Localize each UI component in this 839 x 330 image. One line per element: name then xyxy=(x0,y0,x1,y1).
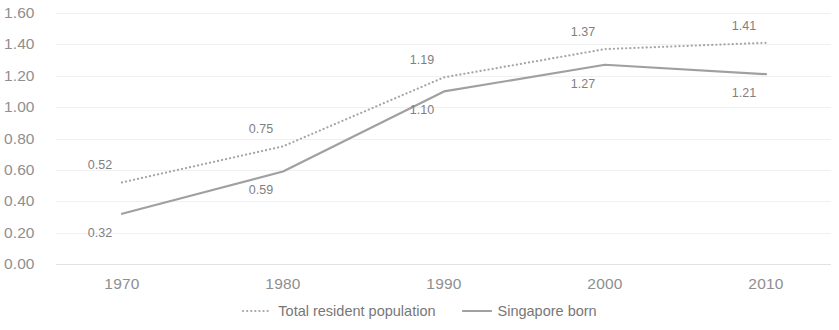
series-line xyxy=(122,65,766,214)
y-axis: 1.601.401.201.000.800.600.400.200.00 xyxy=(0,13,50,264)
data-point-label: 0.52 xyxy=(88,159,112,172)
data-point-label: 1.19 xyxy=(410,54,434,67)
data-point-label: 0.59 xyxy=(249,184,273,197)
data-point-label: 1.27 xyxy=(571,77,595,90)
data-point-label: 0.32 xyxy=(88,226,112,239)
data-point-label: 1.41 xyxy=(732,19,756,32)
x-axis-tick-label: 2000 xyxy=(587,276,622,292)
y-axis-tick-label: 1.60 xyxy=(4,5,50,21)
data-point-label: 1.37 xyxy=(571,26,595,39)
y-axis-tick-label: 0.80 xyxy=(4,131,50,147)
y-axis-tick-label: 1.00 xyxy=(4,99,50,115)
legend-label: Singapore born xyxy=(498,303,597,319)
line-chart: 1.601.401.201.000.800.600.400.200.00 0.5… xyxy=(0,0,839,330)
legend-label: Total resident population xyxy=(278,303,435,319)
dotted-line-icon xyxy=(242,305,272,317)
x-axis-tick-label: 2010 xyxy=(748,276,783,292)
x-axis-tick-label: 1990 xyxy=(426,276,461,292)
x-axis-line xyxy=(56,264,831,265)
y-axis-tick-label: 1.20 xyxy=(4,68,50,84)
data-point-label: 0.75 xyxy=(249,123,273,136)
legend-entry[interactable]: Total resident population xyxy=(242,303,435,319)
y-axis-tick-label: 1.40 xyxy=(4,36,50,52)
x-axis: 19701980199020002010 xyxy=(0,276,839,298)
chart-legend: Total resident populationSingapore born xyxy=(0,303,839,319)
legend-entry[interactable]: Singapore born xyxy=(462,303,597,319)
y-axis-tick-label: 0.40 xyxy=(4,193,50,209)
series-line xyxy=(122,43,766,183)
solid-line-icon xyxy=(462,305,492,317)
y-axis-tick-label: 0.20 xyxy=(4,225,50,241)
series-lines xyxy=(56,13,831,264)
y-axis-tick-label: 0.00 xyxy=(4,256,50,272)
data-point-label: 1.10 xyxy=(410,104,434,117)
x-axis-tick-label: 1970 xyxy=(104,276,139,292)
plot-area: 0.520.751.191.371.410.320.591.101.271.21 xyxy=(56,13,831,264)
data-point-label: 1.21 xyxy=(732,87,756,100)
y-axis-tick-label: 0.60 xyxy=(4,162,50,178)
x-axis-tick-label: 1980 xyxy=(265,276,300,292)
